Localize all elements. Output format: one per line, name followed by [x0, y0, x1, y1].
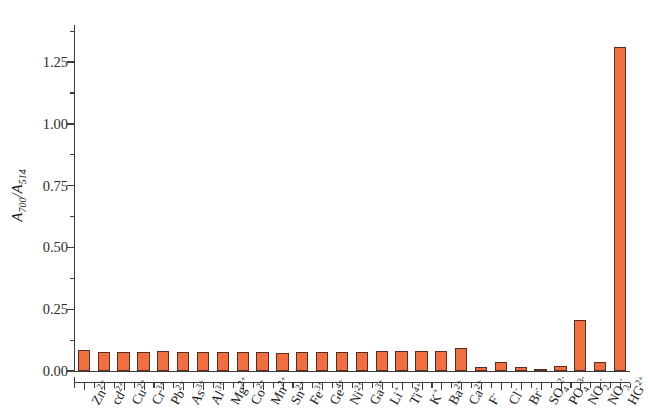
y-axis-line: [74, 25, 75, 371]
y-axis-tick-label: 0.50: [22, 240, 68, 254]
x-axis-minor-tick: [610, 383, 611, 388]
x-axis-minor-tick: [570, 383, 571, 388]
bar: [554, 366, 566, 371]
bar: [534, 369, 546, 371]
bar: [415, 351, 427, 371]
x-axis-tick: [422, 383, 423, 390]
plot-area: Zn2+cd2+Cu2+Cr3+Pb2+As3+Al3+Mg2+Co2+Mn2+…: [74, 25, 630, 371]
y-axis-tick-labels: 0.000.250.500.751.001.25: [22, 0, 68, 413]
bar: [197, 352, 209, 371]
y-axis-tick: [67, 370, 74, 371]
x-axis-minor-tick: [491, 383, 492, 388]
y-axis-tick-label: 0.25: [22, 302, 68, 316]
x-axis-tick: [580, 383, 581, 390]
y-axis-minor-tick: [70, 31, 74, 32]
x-axis-tick: [283, 383, 284, 390]
y-axis-tick-label: 1.25: [22, 55, 68, 69]
bar: [217, 352, 229, 371]
x-axis-tick: [600, 383, 601, 390]
x-axis-minor-tick: [392, 383, 393, 388]
x-axis-tick: [461, 383, 462, 390]
bar: [78, 350, 90, 371]
x-axis-minor-tick: [551, 383, 552, 388]
bar: [475, 367, 487, 371]
bar: [256, 352, 268, 371]
bar: [98, 352, 110, 371]
bar: [395, 351, 407, 371]
x-axis-minor-tick: [451, 383, 452, 388]
x-axis-minor-tick: [253, 383, 254, 388]
x-axis-minor-tick: [134, 383, 135, 388]
x-axis-tick: [322, 383, 323, 390]
x-axis-tick: [342, 383, 343, 390]
bar: [157, 351, 169, 371]
x-axis-tick: [163, 383, 164, 390]
x-axis-minor-tick: [352, 383, 353, 388]
x-axis-minor-tick: [312, 383, 313, 388]
x-axis-tick: [124, 383, 125, 390]
y-axis-minor-tick: [70, 278, 74, 279]
y-axis-tick-label: 0.00: [22, 364, 68, 378]
x-axis-minor-tick: [114, 383, 115, 388]
bar: [296, 352, 308, 371]
x-axis-minor-tick: [471, 383, 472, 388]
x-axis-tick: [84, 383, 85, 390]
bar: [137, 352, 149, 371]
x-axis-minor-tick: [412, 383, 413, 388]
x-axis-tick: [203, 383, 204, 390]
y-axis-minor-tick: [70, 340, 74, 341]
y-axis-minor-tick: [70, 92, 74, 93]
bar: [117, 352, 129, 371]
bar: [455, 348, 467, 371]
x-axis-minor-tick: [431, 383, 432, 388]
y-axis-minor-tick: [70, 216, 74, 217]
x-axis-minor-tick: [372, 383, 373, 388]
x-axis-tick: [620, 383, 621, 390]
y-axis-tick: [67, 309, 74, 310]
x-axis-tick: [561, 383, 562, 390]
x-axis-tick: [183, 383, 184, 390]
x-axis-minor-tick: [74, 383, 75, 388]
y-axis-minor-tick: [70, 154, 74, 155]
x-axis-minor-tick: [273, 383, 274, 388]
bar: [435, 351, 447, 371]
bar: [574, 320, 586, 371]
x-axis-category-label: HG2+: [623, 374, 648, 408]
x-axis-category-label: F-: [484, 390, 504, 408]
x-axis-minor-tick: [630, 383, 631, 388]
x-axis-tick: [104, 383, 105, 390]
y-axis-tick: [67, 247, 74, 248]
bar: [336, 352, 348, 371]
x-axis-tick: [144, 383, 145, 390]
y-axis-tick-label: 0.75: [22, 179, 68, 193]
x-axis-minor-tick: [332, 383, 333, 388]
x-axis-tick: [302, 383, 303, 390]
bar: [495, 362, 507, 371]
x-axis-tick: [243, 383, 244, 390]
x-axis-tick: [223, 383, 224, 390]
x-axis-tick: [402, 383, 403, 390]
y-axis-tick: [67, 123, 74, 124]
x-axis-category-label: Cl-: [504, 385, 527, 407]
bar: [316, 352, 328, 371]
x-axis-tick: [501, 383, 502, 390]
x-axis-tick: [481, 383, 482, 390]
x-axis-minor-tick: [531, 383, 532, 388]
bar: [614, 47, 626, 371]
x-axis-minor-tick: [94, 383, 95, 388]
x-axis-minor-tick: [193, 383, 194, 388]
x-axis-minor-tick: [173, 383, 174, 388]
y-axis-tick-label: 1.00: [22, 117, 68, 131]
x-axis-minor-tick: [292, 383, 293, 388]
bar: [515, 367, 527, 371]
x-axis-minor-tick: [213, 383, 214, 388]
x-axis-minor-tick: [590, 383, 591, 388]
bar: [356, 352, 368, 371]
x-axis-minor-tick: [233, 383, 234, 388]
bar: [594, 362, 606, 371]
bar: [276, 353, 288, 371]
bar: [376, 351, 388, 371]
x-axis-tick: [521, 383, 522, 390]
x-axis-tick: [382, 383, 383, 390]
